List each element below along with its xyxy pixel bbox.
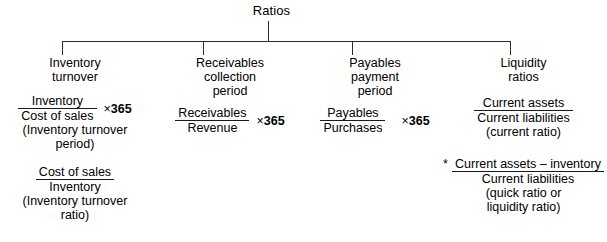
formula-caption: (Inventory turnover ratio) [0,194,150,222]
branch-heading-payables-payment-period: Payables payment period [300,56,450,98]
multiplier-365: ×365 [256,114,284,128]
connector-drop-4 [510,41,511,55]
formula-quick-ratio: * Current assets – inventory Current lia… [440,157,607,186]
root-node-ratios: Ratios [0,3,607,18]
fraction-denominator: Cost of sales [18,109,96,123]
multiplier-365: ×365 [401,114,429,128]
branch-heading-line: ratios [440,70,607,84]
times-symbol: × [401,114,408,128]
formula-inventory-turnover-ratio: Cost of sales Inventory [0,165,150,194]
branch-heading-line: Liquidity [440,56,607,70]
connector-horizontal-bus [62,41,511,42]
branch-liquidity-ratios: Liquidity ratios Current assets Current … [440,56,607,214]
root-label-text: Ratios [253,3,290,18]
branch-heading-receivables-collection-period: Receivables collection period [150,56,310,98]
multiplier-value: 365 [264,114,285,128]
branch-payables-payment-period: Payables payment period Payables Purchas… [300,56,450,135]
fraction: Cost of sales Inventory [36,165,114,194]
branch-heading-line: payment [300,70,450,84]
connector-drop-1 [62,41,63,55]
fraction-numerator: Cost of sales [36,165,114,180]
times-symbol: × [256,114,263,128]
fraction: Payables Purchases [320,106,385,135]
root-node-label: Ratios [253,3,290,18]
fraction-numerator: Current assets – inventory [452,157,604,172]
caption-line: (current ratio) [440,125,607,139]
caption-line: (Inventory turnover [0,123,150,137]
formula-caption: (current ratio) [440,125,607,139]
branch-heading-line: period [150,84,310,98]
multiplier-value: 365 [409,114,430,128]
multiplier-value: 365 [111,102,132,116]
fraction-numerator: Current assets [474,96,572,111]
fraction-denominator: Current liabilities [452,172,604,186]
branch-receivables-collection-period: Receivables collection period Receivable… [150,56,310,135]
fraction-denominator: Purchases [320,121,385,135]
caption-line: ratio) [0,208,150,222]
fraction-numerator: Payables [320,106,385,121]
branch-heading-line: Inventory [0,56,150,70]
branch-heading-line: Receivables [150,56,310,70]
branch-heading-inventory-turnover: Inventory turnover [0,56,150,84]
formula-caption: (quick ratio or liquidity ratio) [440,186,607,214]
branch-heading-line: collection [150,70,310,84]
fraction: Current assets Current liabilities [474,96,572,125]
ratios-diagram: Ratios Inventory turnover Inventory Cost… [0,0,607,242]
fraction-denominator: Current liabilities [474,111,572,125]
fraction-denominator: Revenue [175,121,249,135]
branch-heading-liquidity-ratios: Liquidity ratios [440,56,607,84]
footnote-asterisk: * [443,157,448,171]
fraction-numerator: Receivables [175,106,249,121]
formula-receivables-collection-period: Receivables Revenue ×365 [150,106,310,135]
multiplier-365: ×365 [104,102,132,116]
branch-inventory-turnover: Inventory turnover Inventory Cost of sal… [0,56,150,222]
fraction: Inventory Cost of sales [18,94,96,123]
connector-stem [268,21,269,41]
branch-heading-line: period [300,84,450,98]
caption-line: liquidity ratio) [440,200,607,214]
connector-drop-2 [203,41,204,55]
caption-line: period) [0,137,150,151]
caption-line: (quick ratio or [440,186,607,200]
formula-inventory-turnover-period: Inventory Cost of sales ×365 [0,94,150,123]
fraction-numerator: Inventory [18,94,96,109]
branch-heading-line: Payables [300,56,450,70]
times-symbol: × [104,102,111,116]
fraction: Receivables Revenue [175,106,249,135]
branch-heading-line: turnover [0,70,150,84]
formula-payables-payment-period: Payables Purchases ×365 [300,106,450,135]
formula-current-ratio: Current assets Current liabilities [440,96,607,125]
fraction-denominator: Inventory [36,180,114,194]
caption-line: (Inventory turnover [0,194,150,208]
formula-caption: (Inventory turnover period) [0,123,150,151]
connector-drop-3 [352,41,353,55]
fraction: Current assets – inventory Current liabi… [452,157,604,186]
